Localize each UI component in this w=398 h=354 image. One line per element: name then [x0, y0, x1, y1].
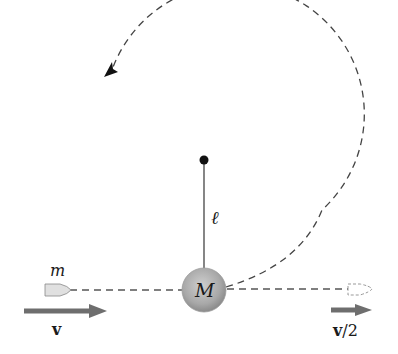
rod-length-label: ℓ	[211, 207, 219, 228]
circular-trajectory-path	[112, 0, 364, 287]
bob-mass-label: M	[194, 279, 215, 301]
trajectory-arrow-icon	[104, 62, 118, 77]
pendulum-diagram: ℓ m M v v/2	[0, 0, 398, 354]
pivot-point	[200, 156, 209, 165]
velocity-arrow-icon	[89, 304, 107, 318]
bullet-mass-label: m	[50, 261, 65, 280]
initial-velocity-label: v	[51, 320, 62, 339]
bullet-exit-outline	[348, 284, 372, 295]
final-velocity-arrow-icon	[355, 304, 372, 316]
bullet-icon	[45, 284, 71, 296]
final-velocity-label: v/2	[332, 321, 358, 340]
